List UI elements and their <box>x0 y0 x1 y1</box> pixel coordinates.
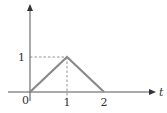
origin-label: 0 <box>22 94 29 107</box>
triangle-pulse-chart: 0 1 2 1 t <box>0 0 167 113</box>
x-tick-label-1: 1 <box>64 96 71 109</box>
y-axis-arrow-icon <box>27 4 33 11</box>
x-tick-label-2: 2 <box>101 96 108 109</box>
x-axis-label: t <box>159 86 164 99</box>
x-axis-arrow-icon <box>149 89 156 95</box>
y-tick-label-1: 1 <box>18 51 25 64</box>
